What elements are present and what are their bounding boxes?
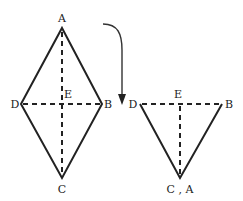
arrowhead-icon [118,94,126,105]
label-d-folded: D [129,98,138,111]
fold-arrow-icon [103,24,126,105]
label-b: B [104,98,112,111]
rhombus-abcd: A D B C E [11,12,112,196]
label-b-folded: B [225,98,233,111]
folded-triangle: D B E C , A [129,88,233,196]
label-a: A [57,12,67,25]
fold-arrow-path [103,24,122,96]
diagram-canvas: A D B C E D B E C , A [0,0,243,201]
label-c: C [58,183,66,196]
label-e-folded: E [174,88,182,101]
label-ca-folded: C , A [167,183,195,196]
label-e: E [64,88,72,101]
label-d: D [11,98,20,111]
